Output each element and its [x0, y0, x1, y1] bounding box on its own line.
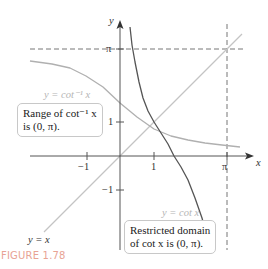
label-arccot: y = cot⁻¹ x: [44, 90, 90, 101]
domain-callout: Restricted domain of cot x is (0, π).: [124, 220, 216, 254]
y-tick-label-neg1: −1: [102, 185, 113, 196]
y-tick-label-1: 1: [108, 117, 113, 128]
y-axis-label: y: [109, 16, 114, 27]
y-tick-label-pi: π: [106, 44, 111, 55]
range-callout: Range of cot⁻¹ x is (0, π).: [17, 103, 103, 137]
x-tick-label-1: 1: [151, 162, 156, 173]
domain-callout-line1: Restricted domain: [130, 224, 210, 237]
label-cot: y = cot x: [162, 208, 199, 219]
domain-callout-line2: of cot x is (0, π).: [130, 237, 210, 250]
x-tick-label-pi: π: [222, 162, 227, 173]
range-callout-line1: Range of cot⁻¹ x: [23, 107, 97, 120]
x-axis-label: x: [256, 158, 261, 169]
label-y-equals-x: y = x: [28, 235, 50, 246]
x-tick-label-neg1: −1: [78, 162, 89, 173]
range-callout-line2: is (0, π).: [23, 120, 97, 133]
figure-caption: FIGURE 1.78: [1, 250, 66, 261]
